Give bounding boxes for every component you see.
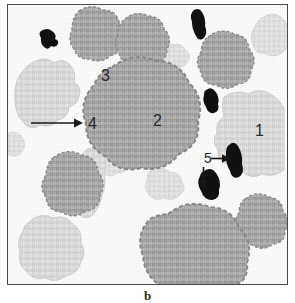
label-4: 4 xyxy=(88,116,97,132)
label-2: 2 xyxy=(153,113,162,129)
cluster-bottom-center xyxy=(140,204,249,284)
label-5: 5 xyxy=(204,151,212,165)
light-patch-top-right xyxy=(251,14,287,56)
cluster-top-left xyxy=(70,7,124,61)
panel-caption: b xyxy=(0,288,295,303)
figure-panel: 1 2 3 4 5 b xyxy=(0,0,295,303)
arrow-label-5-down xyxy=(198,167,209,188)
cluster-right-upper xyxy=(198,31,255,88)
label-3: 3 xyxy=(101,68,110,84)
label-1: 1 xyxy=(255,123,264,139)
dark-particle-top-right xyxy=(191,9,206,40)
micrograph-image: 1 2 3 4 5 xyxy=(7,4,288,285)
arrow-label-5-right xyxy=(211,153,230,164)
stained-objects-layer xyxy=(8,5,287,284)
dark-particle-mid-right xyxy=(203,88,218,113)
light-patch-bottom-left xyxy=(19,215,84,280)
light-patch-mid-low xyxy=(145,168,184,200)
light-patch-far-left xyxy=(8,132,25,157)
arrow-label-4 xyxy=(31,117,83,129)
cluster-left-middle xyxy=(42,152,103,216)
dark-particle-top-left xyxy=(40,29,59,49)
